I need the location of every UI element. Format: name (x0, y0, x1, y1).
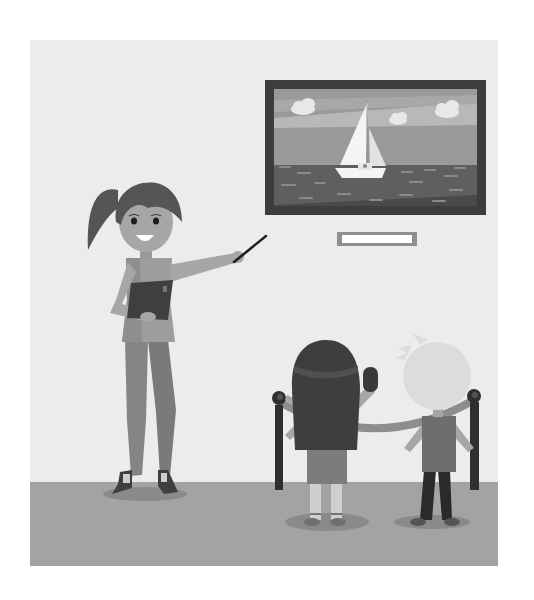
framed-painting (265, 80, 486, 215)
phone-icon (363, 367, 378, 392)
painting-plaque (337, 232, 417, 246)
gallery-illustration (0, 0, 534, 600)
